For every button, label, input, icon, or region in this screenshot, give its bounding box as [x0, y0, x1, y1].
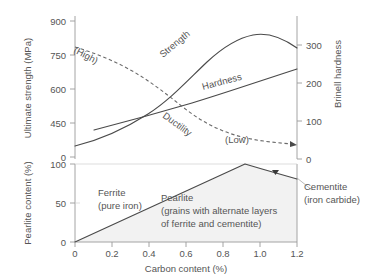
upper-right-axis-title: Brinell hardness — [332, 40, 343, 108]
upper-ytick-900: 900 — [50, 16, 66, 27]
cementite-callout-label: Cementite (iron carbide) — [304, 181, 360, 205]
upper-ytick-750: 750 — [50, 50, 66, 61]
upper-right-ytick-0: 0 — [306, 154, 311, 165]
ferrite-label-line2: (pure iron) — [98, 200, 142, 211]
properties-panel: 900 750 600 450 0 Ultimate strength (MPa… — [22, 16, 343, 165]
chart-figure: 900 750 600 450 0 Ultimate strength (MPa… — [0, 0, 369, 276]
lower-left-axis-title: Pearlite content (%) — [22, 161, 33, 244]
xtick-0-2: 0.2 — [105, 248, 118, 259]
upper-right-ytick-300: 300 — [306, 40, 322, 51]
ferrite-region-label: Ferrite (pure iron) — [98, 187, 142, 211]
cementite-label-line2: (iron carbide) — [304, 194, 360, 205]
ductility-curve-label: Ductility — [161, 110, 195, 139]
upper-left-ticks — [70, 21, 75, 157]
xtick-0: 0 — [72, 248, 77, 259]
xtick-1-0: 1.0 — [253, 248, 266, 259]
x-axis-ticks — [75, 242, 297, 247]
lower-left-ticks — [70, 164, 75, 242]
lower-ytick-100: 100 — [50, 159, 66, 170]
xtick-0-6: 0.6 — [179, 248, 192, 259]
upper-right-ytick-100: 100 — [306, 116, 322, 127]
xtick-0-8: 0.8 — [216, 248, 229, 259]
hardness-curve — [94, 69, 297, 130]
xtick-1-2: 1.2 — [290, 248, 303, 259]
upper-ytick-450: 450 — [50, 118, 66, 129]
pearlite-label-line3: of ferrite and cementite) — [161, 218, 261, 229]
strength-curve-label: Strength — [157, 28, 192, 60]
microstructure-panel: 100 50 0 Pearlite content (%) Ferrite (p… — [22, 159, 360, 275]
lower-ytick-50: 50 — [55, 198, 66, 209]
lower-ytick-0: 0 — [61, 237, 66, 248]
cementite-label-line1: Cementite — [304, 181, 347, 192]
pearlite-label-line2: (grains with alternate layers — [161, 205, 277, 216]
xtick-0-4: 0.4 — [142, 248, 155, 259]
ductility-high-annotation: (High) — [72, 44, 100, 66]
steel-properties-chart: 900 750 600 450 0 Ultimate strength (MPa… — [0, 0, 369, 276]
ferrite-label-line1: Ferrite — [98, 187, 125, 198]
upper-left-axis-title: Ultimate strength (MPa) — [22, 38, 33, 138]
upper-right-ytick-200: 200 — [306, 78, 322, 89]
pearlite-label-line1: Pearlite — [161, 192, 193, 203]
upper-ytick-600: 600 — [50, 84, 66, 95]
x-axis-title: Carbon content (%) — [145, 263, 227, 274]
upper-right-ticks — [297, 45, 302, 159]
ductility-arrow-icon — [290, 141, 297, 147]
ductility-low-annotation: (Low) — [225, 134, 249, 145]
